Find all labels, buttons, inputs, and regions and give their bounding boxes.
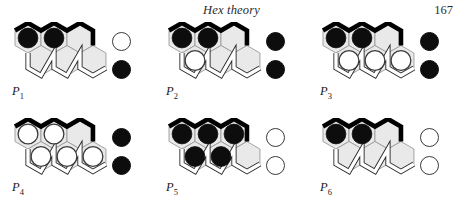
black-stone[interactable] bbox=[172, 124, 192, 144]
legend-black-stone[interactable] bbox=[112, 156, 131, 175]
hex-position-panel-p6: P6 bbox=[308, 118, 463, 218]
black-stone[interactable] bbox=[224, 124, 244, 144]
panel-label-p3: P3 bbox=[320, 84, 332, 101]
black-stone[interactable] bbox=[198, 28, 218, 48]
black-stone[interactable] bbox=[198, 124, 218, 144]
hex-board bbox=[6, 22, 116, 122]
black-stone[interactable] bbox=[18, 28, 38, 48]
panel-label-letter: P bbox=[320, 84, 328, 98]
hex-position-panel-p1: P1 bbox=[0, 22, 155, 122]
panel-legend-p4 bbox=[108, 126, 148, 188]
hex-position-panel-p5: P5 bbox=[154, 118, 309, 218]
legend-white-stone[interactable] bbox=[112, 32, 131, 51]
panel-label-letter: P bbox=[320, 180, 328, 194]
black-stone[interactable] bbox=[326, 28, 346, 48]
white-stone[interactable] bbox=[185, 51, 205, 71]
legend-black-stone[interactable] bbox=[266, 60, 285, 79]
panel-label-letter: P bbox=[166, 84, 174, 98]
panel-label-letter: P bbox=[12, 180, 20, 194]
black-stone[interactable] bbox=[352, 28, 372, 48]
legend-black-stone[interactable] bbox=[420, 60, 439, 79]
white-stone[interactable] bbox=[31, 147, 51, 167]
legend-white-stone[interactable] bbox=[266, 156, 285, 175]
legend-white-stone[interactable] bbox=[266, 128, 285, 147]
white-stone[interactable] bbox=[83, 147, 103, 167]
black-stone[interactable] bbox=[185, 147, 205, 167]
panel-label-index: 1 bbox=[20, 91, 24, 101]
legend-black-stone[interactable] bbox=[420, 32, 439, 51]
legend-black-stone[interactable] bbox=[112, 60, 131, 79]
white-stone[interactable] bbox=[391, 51, 411, 71]
hex-board bbox=[6, 118, 116, 218]
page-number: 167 bbox=[434, 3, 453, 18]
panel-label-index: 2 bbox=[174, 91, 178, 101]
panel-legend-p5 bbox=[262, 126, 302, 188]
black-stone[interactable] bbox=[352, 124, 372, 144]
hex-position-panel-p4: P4 bbox=[0, 118, 155, 218]
legend-black-stone[interactable] bbox=[266, 32, 285, 51]
black-stone[interactable] bbox=[44, 28, 64, 48]
white-stone[interactable] bbox=[365, 51, 385, 71]
panel-label-index: 3 bbox=[328, 91, 332, 101]
hex-position-figure: P1P2P3P4P5P6 bbox=[0, 22, 463, 222]
panel-legend-p6 bbox=[416, 126, 456, 188]
panel-label-p6: P6 bbox=[320, 180, 332, 197]
legend-white-stone[interactable] bbox=[420, 128, 439, 147]
hex-board bbox=[314, 22, 424, 122]
white-stone[interactable] bbox=[339, 51, 359, 71]
black-stone[interactable] bbox=[172, 28, 192, 48]
panel-label-p5: P5 bbox=[166, 180, 178, 197]
panel-label-index: 5 bbox=[174, 187, 178, 197]
page-header: Hex theory 167 bbox=[0, 0, 463, 22]
white-stone[interactable] bbox=[57, 147, 77, 167]
page-title: Hex theory bbox=[0, 3, 463, 18]
black-stone[interactable] bbox=[211, 147, 231, 167]
white-stone[interactable] bbox=[44, 124, 64, 144]
panel-legend-p1 bbox=[108, 30, 148, 92]
panel-label-p2: P2 bbox=[166, 84, 178, 101]
panel-label-letter: P bbox=[166, 180, 174, 194]
panel-label-index: 6 bbox=[328, 187, 332, 197]
white-stone[interactable] bbox=[18, 124, 38, 144]
panel-legend-p2 bbox=[262, 30, 302, 92]
panel-legend-p3 bbox=[416, 30, 456, 92]
black-stone[interactable] bbox=[326, 124, 346, 144]
panel-label-p4: P4 bbox=[12, 180, 24, 197]
panel-label-p1: P1 bbox=[12, 84, 24, 101]
panel-label-index: 4 bbox=[20, 187, 24, 197]
legend-white-stone[interactable] bbox=[420, 156, 439, 175]
hex-board bbox=[160, 118, 270, 218]
hex-position-panel-p3: P3 bbox=[308, 22, 463, 122]
hex-position-panel-p2: P2 bbox=[154, 22, 309, 122]
hex-board bbox=[160, 22, 270, 122]
hex-board bbox=[314, 118, 424, 218]
legend-black-stone[interactable] bbox=[112, 128, 131, 147]
panel-label-letter: P bbox=[12, 84, 20, 98]
